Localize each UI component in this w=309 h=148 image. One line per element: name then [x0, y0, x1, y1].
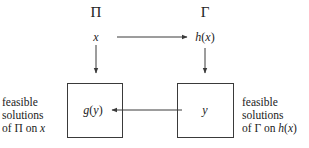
- right-caption-line2: solutions: [242, 109, 297, 122]
- instance-hx-label: h(x): [195, 31, 214, 43]
- hx-arg: x: [205, 30, 210, 44]
- problem-gamma-label: Γ: [201, 5, 210, 20]
- right-caption-fn: h: [278, 122, 284, 134]
- right-caption-arg: x: [288, 122, 293, 134]
- right-caption-line1: feasible: [242, 96, 297, 109]
- right-caption-line3: of Γ on h(x): [242, 122, 297, 135]
- right-caption: feasible solutions of Γ on h(x): [242, 96, 297, 135]
- left-caption: feasible solutions of Π on x: [2, 96, 45, 135]
- reduction-diagram: Π Γ x h(x) g(y) y feasible solutions of …: [0, 0, 309, 148]
- left-caption-line3: of Π on x: [2, 122, 45, 135]
- problem-pi-label: Π: [91, 5, 102, 20]
- left-caption-line2: solutions: [2, 109, 45, 122]
- y-label: y: [202, 104, 207, 116]
- gy-arg: y: [93, 103, 98, 117]
- right-caption-prefix: of Γ on: [242, 122, 278, 134]
- left-caption-var: x: [40, 122, 45, 134]
- hx-fn: h: [195, 30, 201, 44]
- left-caption-prefix: of Π on: [2, 122, 40, 134]
- gy-label: g(y): [83, 104, 102, 116]
- gy-fn: g: [83, 103, 89, 117]
- left-caption-line1: feasible: [2, 96, 45, 109]
- instance-x-label: x: [93, 31, 98, 43]
